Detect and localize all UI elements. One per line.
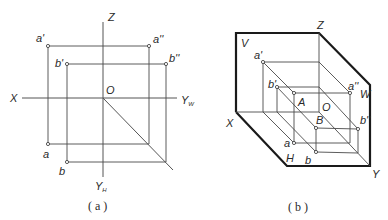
point-A-3d xyxy=(292,91,295,94)
point-b-dprime xyxy=(164,62,167,65)
label-a-dprime-3d: a'' xyxy=(348,80,359,92)
z-to-a-dprime xyxy=(319,62,350,93)
point-a-3d xyxy=(292,141,295,144)
label-v-plane: V xyxy=(241,37,250,49)
label-a-prime: a' xyxy=(36,32,45,44)
figure-b: V Z W X H Y O A B a' a'' b' b'' a b ( b … xyxy=(225,19,380,214)
label-y-w: YW xyxy=(181,94,195,107)
label-h-plane: H xyxy=(286,152,294,164)
label-b-prime-3d: b' xyxy=(268,78,277,90)
caption-b: ( b ) xyxy=(288,200,308,214)
label-w-plane: W xyxy=(360,88,372,100)
point-b xyxy=(65,160,68,163)
point-b-3d xyxy=(314,150,317,153)
b-to-yaxis xyxy=(316,152,358,153)
point-b-dprime-3d xyxy=(356,127,359,130)
label-y-h: YH xyxy=(95,180,107,193)
point-b-prime xyxy=(65,62,68,65)
point-B-3d xyxy=(314,126,317,129)
label-x-3d: X xyxy=(225,117,234,129)
45-degree-line xyxy=(103,98,173,170)
label-origin: O xyxy=(106,84,115,96)
label-b-dprime-3d: b'' xyxy=(360,114,371,126)
label-z-3d: Z xyxy=(316,19,325,31)
label-a-prime-3d: a' xyxy=(254,49,263,61)
projection-diagram: Z X O YW YH a' a'' b' b'' a b ( a ) xyxy=(0,0,388,220)
label-y-h-sub: H xyxy=(102,187,107,193)
label-x: X xyxy=(9,92,18,104)
label-b-prime: b' xyxy=(55,57,64,69)
point-a xyxy=(46,142,49,145)
point-a-dprime xyxy=(147,44,150,47)
caption-a: ( a ) xyxy=(88,199,107,213)
label-a-dprime: a'' xyxy=(153,33,164,45)
label-B: B xyxy=(316,114,323,126)
label-y-w-sub: W xyxy=(188,101,195,107)
label-b-3d: b xyxy=(305,154,311,166)
label-a: a xyxy=(43,148,49,160)
figure-a: Z X O YW YH a' a'' b' b'' a b ( a ) xyxy=(9,11,195,213)
label-y-3d: Y xyxy=(372,168,380,180)
label-z: Z xyxy=(107,11,116,23)
label-A: A xyxy=(297,96,305,108)
label-a-3d: a xyxy=(284,137,290,149)
label-b: b xyxy=(59,165,65,177)
label-origin-3d: O xyxy=(322,101,331,113)
point-a-prime xyxy=(46,44,49,47)
B-to-b-dprime xyxy=(316,128,358,129)
label-b-dprime: b'' xyxy=(169,52,180,64)
